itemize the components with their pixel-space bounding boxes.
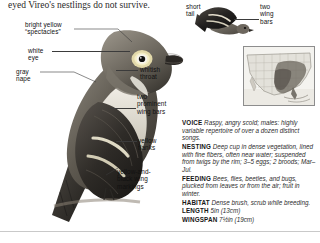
fact-value: 5in (13cm) bbox=[209, 207, 241, 214]
fact-value: Dense brush, scrub while breeding. bbox=[210, 199, 310, 206]
fact-key: WINGSPAN bbox=[182, 216, 217, 223]
fact-row: NESTING Deep cup in dense vegetation, li… bbox=[182, 143, 318, 173]
fact-key: VOICE bbox=[182, 119, 202, 126]
fact-row: FEEDING Bees, flies, beetles, and bugs, … bbox=[182, 175, 318, 198]
label-whitish-throat: whitish throat bbox=[140, 66, 184, 81]
page-footer-area bbox=[0, 232, 320, 243]
leader-yellow-flanks bbox=[116, 141, 137, 142]
fact-key: LENGTH bbox=[182, 207, 209, 214]
fact-key: NESTING bbox=[182, 143, 211, 150]
fact-key: HABITAT bbox=[182, 199, 210, 206]
label-wing-bars: two prominent wing bars bbox=[137, 93, 185, 115]
leader-gray-nape bbox=[40, 70, 100, 90]
leader-wing-markings bbox=[104, 166, 120, 178]
fact-row: WINGSPAN 7½in (19cm) bbox=[182, 216, 318, 224]
fact-row: VOICE Raspy, angry scold; males: highly … bbox=[182, 119, 318, 142]
label-wing-markings: yellow-and- black wing markings bbox=[117, 168, 169, 190]
label-yellow-flanks: yellow flanks bbox=[138, 137, 178, 152]
fact-key: FEEDING bbox=[182, 175, 211, 182]
fact-list: VOICE Raspy, angry scold; males: highly … bbox=[182, 119, 318, 225]
label-white-eye: white eye bbox=[28, 47, 68, 62]
fact-row: HABITAT Dense brush, scrub while breedin… bbox=[182, 199, 318, 207]
range-map bbox=[243, 46, 315, 106]
fact-row: LENGTH 5in (13cm) bbox=[182, 207, 318, 215]
leader-whitish-throat bbox=[116, 70, 138, 71]
fact-value: 7½in (19cm) bbox=[217, 216, 254, 223]
leader-white-eye bbox=[52, 51, 130, 52]
label-flight-wing-bars: two wing bars bbox=[260, 3, 296, 25]
leader-flight-wing-bars bbox=[234, 19, 259, 20]
leader-wing-bars bbox=[110, 108, 136, 109]
label-short-tail: short tail bbox=[186, 3, 212, 18]
leader-spectacles bbox=[74, 27, 134, 49]
